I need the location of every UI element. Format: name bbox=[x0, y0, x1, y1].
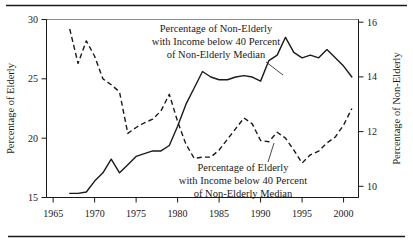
x-ticklabel-1975: 1975 bbox=[126, 208, 146, 219]
right-ticklabel-16: 16 bbox=[367, 17, 377, 28]
elderly-annotation-line-3: of Non-Elderly Median bbox=[194, 188, 293, 199]
right-ticklabel-10: 10 bbox=[367, 181, 377, 192]
non-elderly-annotation-line-1: Percentage of Non-Elderly bbox=[160, 23, 273, 34]
non-elderly-annotation-line-3: of Non-Elderly Median bbox=[167, 49, 266, 60]
chart-svg: 30 25 20 15 Percentage of Elderly 16 14 … bbox=[0, 0, 413, 247]
right-ticklabel-14: 14 bbox=[367, 71, 377, 82]
elderly-annotation-line-2: with Income below 40 Percent bbox=[179, 175, 307, 186]
left-axis-title: Percentage of Elderly bbox=[5, 62, 16, 154]
x-ticklabel-1995: 1995 bbox=[292, 208, 312, 219]
x-ticklabel-1985: 1985 bbox=[209, 208, 229, 219]
left-ticklabel-20: 20 bbox=[28, 133, 38, 144]
x-ticklabel-1980: 1980 bbox=[168, 208, 188, 219]
figure-container: 30 25 20 15 Percentage of Elderly 16 14 … bbox=[0, 0, 413, 247]
right-axis-title: Percentage of Non-Elderly bbox=[391, 51, 402, 164]
elderly-annotation-line-1: Percentage of Elderly bbox=[198, 162, 290, 173]
left-ticklabel-15: 15 bbox=[28, 192, 38, 203]
x-ticklabel-1970: 1970 bbox=[85, 208, 105, 219]
left-ticklabel-25: 25 bbox=[28, 73, 38, 84]
right-ticklabel-12: 12 bbox=[367, 126, 377, 137]
x-ticklabel-2000: 2000 bbox=[334, 208, 354, 219]
x-ticklabel-1965: 1965 bbox=[43, 208, 63, 219]
x-ticklabel-1990: 1990 bbox=[251, 208, 271, 219]
non-elderly-annotation-line-2: with Income below 40 Percent bbox=[152, 36, 280, 47]
left-ticklabel-30: 30 bbox=[28, 14, 38, 25]
